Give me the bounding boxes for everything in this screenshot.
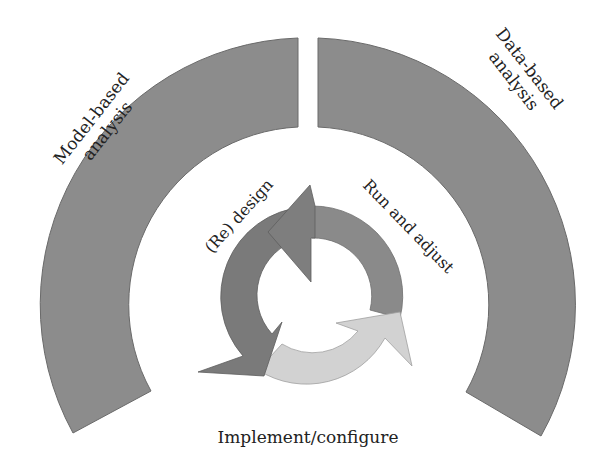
implement-configure-label: Implement/configure bbox=[218, 427, 399, 447]
redesign-arrowhead bbox=[268, 185, 315, 282]
run-and-adjust-arrow bbox=[312, 206, 403, 318]
analysis-cycle-diagram: Model-based analysis Data-based analysis… bbox=[0, 0, 604, 470]
